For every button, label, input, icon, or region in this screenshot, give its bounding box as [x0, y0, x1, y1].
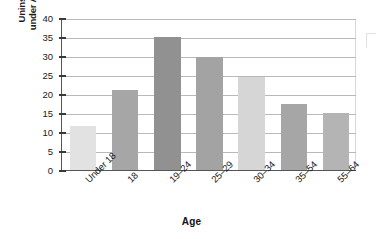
scan-artifact-mark	[366, 33, 376, 48]
y-axis-tick	[59, 94, 66, 97]
x-axis-title: Age	[0, 216, 383, 227]
gridline	[62, 38, 356, 39]
bar	[281, 104, 308, 171]
y-axis-tick-label: 25	[31, 70, 53, 81]
y-axis-tick-label: 15	[31, 108, 53, 119]
y-axis-tick	[59, 56, 66, 59]
y-axis-tick	[59, 151, 66, 154]
y-axis-tick	[59, 18, 66, 21]
y-axis-tick-label: 35	[31, 32, 53, 43]
y-axis-tick	[59, 113, 66, 116]
y-axis-tick-label: 20	[31, 89, 53, 100]
y-axis-tick	[59, 170, 66, 173]
bar	[323, 113, 350, 170]
y-axis-tick	[59, 132, 66, 135]
y-axis-tick-label: 0	[31, 165, 53, 176]
bar	[238, 77, 265, 170]
bar	[154, 37, 181, 170]
bar	[196, 57, 223, 170]
bar-chart-figure: Uninsured Americans under Age 65 (in per…	[0, 0, 383, 239]
gridline	[62, 19, 356, 20]
bar	[70, 126, 97, 170]
x-axis-tick-label: 18	[125, 170, 140, 185]
y-axis-tick	[59, 75, 66, 78]
y-axis-tick-label: 30	[31, 51, 53, 62]
y-axis-tick	[59, 37, 66, 40]
y-axis-tick-label: 10	[31, 127, 53, 138]
plot-area	[61, 19, 356, 171]
y-axis-tick-label: 5	[31, 146, 53, 157]
y-axis-title-line-1: Uninsured Americans	[16, 0, 27, 23]
y-axis-tick-label: 40	[31, 13, 53, 24]
